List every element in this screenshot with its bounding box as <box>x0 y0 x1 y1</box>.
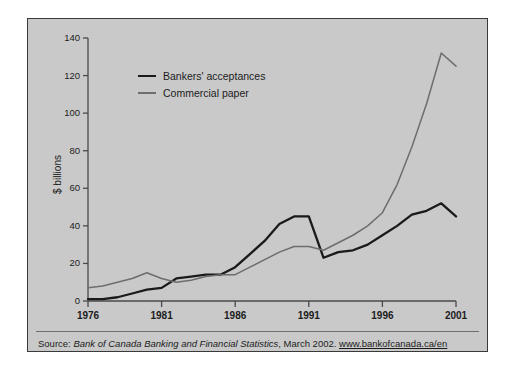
source-url-link[interactable]: www.bankofcanada.ca/en <box>339 338 447 349</box>
y-axis-tick-label: 80 <box>52 146 80 156</box>
plot-area: $ billions 02040608010012014019761981198… <box>28 19 487 329</box>
x-axis-tick-label: 1986 <box>213 310 257 321</box>
y-axis-tick-label: 20 <box>52 258 80 268</box>
source-note: Source: Bank of Canada Banking and Finan… <box>38 337 478 350</box>
y-axis-tick-label: 140 <box>52 33 80 43</box>
y-axis-tick-label: 0 <box>52 296 80 306</box>
x-axis-tick-label: 1991 <box>287 310 331 321</box>
source-divider <box>36 331 479 332</box>
source-prefix: Source: <box>38 338 73 349</box>
source-publication: Bank of Canada Banking and Financial Sta… <box>73 338 278 349</box>
y-axis-tick-label: 40 <box>52 221 80 231</box>
legend-item-commercial-paper: Commercial paper <box>138 84 328 101</box>
x-axis-tick-label: 2001 <box>434 310 478 321</box>
legend-item-bankers-acceptances: Bankers' acceptances <box>138 67 328 84</box>
legend-label-series-1: Commercial paper <box>163 87 249 99</box>
x-axis-tick-label: 1976 <box>66 310 110 321</box>
line-chart-svg <box>28 19 487 329</box>
y-axis-title: $ billions <box>52 130 63 220</box>
series-line-0 <box>88 203 456 299</box>
y-axis-tick-label: 120 <box>52 71 80 81</box>
source-middle: , March 2002. <box>278 338 339 349</box>
x-axis-tick-label: 1981 <box>140 310 184 321</box>
legend-label-series-0: Bankers' acceptances <box>163 70 265 82</box>
figure-root: $ billions 02040608010012014019761981198… <box>0 0 515 369</box>
x-axis-tick-label: 1996 <box>360 310 404 321</box>
chart-frame: $ billions 02040608010012014019761981198… <box>27 18 488 352</box>
legend-line-icon-series-1 <box>138 92 156 94</box>
y-axis-tick-label: 100 <box>52 108 80 118</box>
y-axis-tick-label: 60 <box>52 183 80 193</box>
legend-line-icon-series-0 <box>138 75 156 77</box>
chart-legend: Bankers' acceptances Commercial paper <box>138 67 328 101</box>
